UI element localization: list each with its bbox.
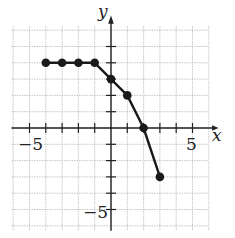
plot-area: x y −5 5 −5 xyxy=(0,0,235,238)
data-series xyxy=(42,59,165,182)
x-tick-label-5: 5 xyxy=(186,134,197,154)
axes xyxy=(12,16,219,231)
data-point-marker xyxy=(42,59,51,68)
x-tick-label-neg5: −5 xyxy=(18,134,43,154)
y-axis-arrow-icon xyxy=(108,16,114,24)
data-point-marker xyxy=(74,59,83,68)
x-axis-label: x xyxy=(212,125,222,145)
y-tick-label-neg5: −5 xyxy=(83,202,108,222)
data-point-marker xyxy=(107,75,116,84)
data-point-marker xyxy=(123,91,132,100)
data-point-marker xyxy=(139,124,148,133)
data-point-marker xyxy=(90,59,99,68)
chart: x y −5 5 −5 xyxy=(0,0,235,238)
data-point-marker xyxy=(58,59,67,68)
y-axis-label: y xyxy=(97,1,108,21)
data-point-marker xyxy=(156,173,165,182)
series-line xyxy=(46,63,160,177)
